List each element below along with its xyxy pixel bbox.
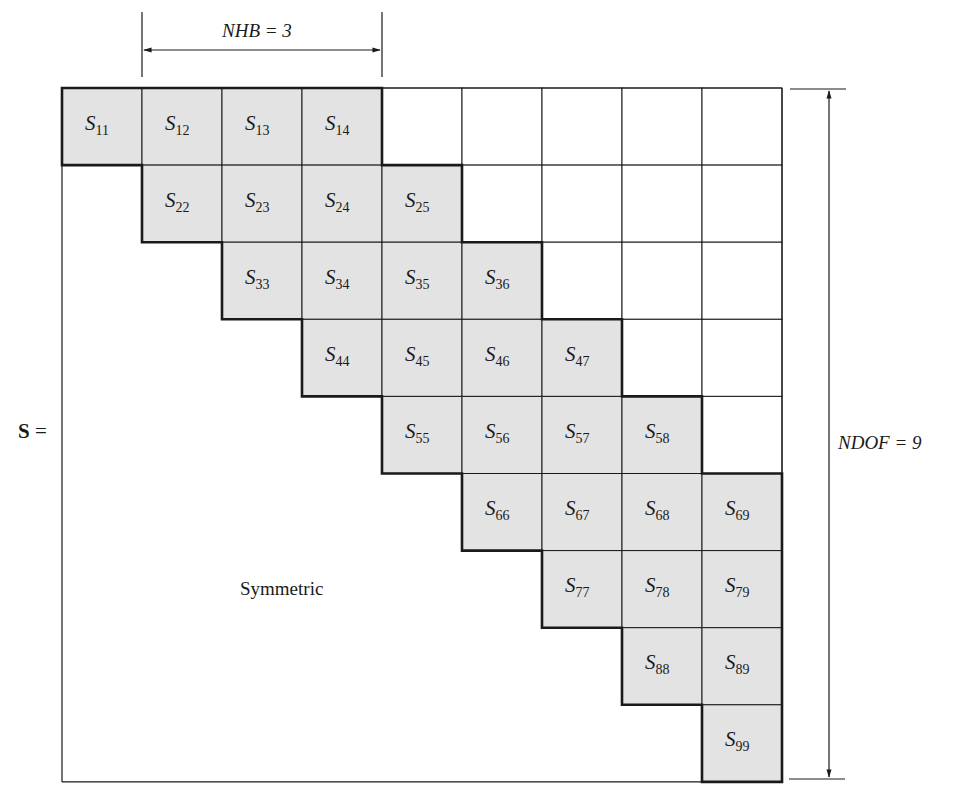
cell-subscript: 23 [256, 200, 270, 215]
cell-subscript: 99 [736, 739, 750, 754]
cell-subscript: 45 [416, 354, 430, 369]
cell-subscript: 14 [336, 123, 350, 138]
cell-subscript: 35 [416, 277, 430, 292]
cell-symbol: S [725, 496, 736, 520]
empty-cell [542, 242, 622, 319]
cell-label: S13 [245, 111, 270, 136]
cell-symbol: S [325, 188, 336, 212]
cell-symbol: S [245, 265, 256, 289]
cell-label: S55 [405, 419, 430, 444]
cell-subscript: 77 [576, 585, 590, 600]
cell-label: S56 [485, 419, 510, 444]
cell-label: S47 [565, 342, 590, 367]
empty-cell [702, 242, 782, 319]
cell-subscript: 24 [336, 200, 350, 215]
empty-cell [702, 165, 782, 242]
cell-subscript: 67 [576, 508, 590, 523]
cell-label: S33 [245, 265, 270, 290]
cell-subscript: 78 [656, 585, 670, 600]
cell-label: S12 [165, 111, 190, 136]
cell-label: S23 [245, 188, 270, 213]
cell-symbol: S [165, 111, 176, 135]
cell-label: S45 [405, 342, 430, 367]
symmetric-label: Symmetric [240, 578, 323, 600]
cell-subscript: 12 [176, 123, 190, 138]
matrix-symbol-label: S = [18, 419, 47, 444]
empty-cell [542, 88, 622, 165]
cell-symbol: S [725, 727, 736, 751]
cell-label: S67 [565, 496, 590, 521]
cell-symbol: S [645, 496, 656, 520]
cell-subscript: 13 [256, 123, 270, 138]
cell-label: S14 [325, 111, 350, 136]
cell-subscript: 69 [736, 508, 750, 523]
cell-symbol: S [325, 111, 336, 135]
cell-label: S44 [325, 342, 350, 367]
empty-cell [622, 319, 702, 396]
matrix-symbol: S [18, 419, 30, 443]
cell-symbol: S [245, 188, 256, 212]
cell-subscript: 47 [576, 354, 590, 369]
cell-subscript: 36 [496, 277, 510, 292]
ndof-label: NDOF = 9 [838, 432, 922, 454]
empty-cell [382, 88, 462, 165]
cell-symbol: S [485, 419, 496, 443]
empty-cell [462, 88, 542, 165]
cell-symbol: S [165, 188, 176, 212]
cell-label: S88 [645, 650, 670, 675]
cell-label: S79 [725, 573, 750, 598]
cell-label: S25 [405, 188, 430, 213]
cell-subscript: 79 [736, 585, 750, 600]
cell-symbol: S [325, 265, 336, 289]
cell-subscript: 55 [416, 431, 430, 446]
cell-symbol: S [405, 265, 416, 289]
cell-symbol: S [565, 342, 576, 366]
cell-label: S68 [645, 496, 670, 521]
cell-subscript: 88 [656, 662, 670, 677]
cell-symbol: S [565, 419, 576, 443]
empty-cell [462, 165, 542, 242]
cell-label: S11 [85, 111, 109, 136]
cell-subscript: 33 [256, 277, 270, 292]
cell-symbol: S [645, 650, 656, 674]
cell-symbol: S [405, 419, 416, 443]
cell-label: S24 [325, 188, 350, 213]
cell-subscript: 22 [176, 200, 190, 215]
cell-symbol: S [405, 342, 416, 366]
cell-label: S77 [565, 573, 590, 598]
empty-cell [542, 165, 622, 242]
cell-symbol: S [485, 496, 496, 520]
cell-subscript: 44 [336, 354, 350, 369]
cell-symbol: S [645, 419, 656, 443]
matrix-grid [0, 0, 956, 798]
cell-label: S46 [485, 342, 510, 367]
equals-sign: = [35, 419, 47, 443]
empty-cell [702, 88, 782, 165]
empty-cell [622, 242, 702, 319]
cell-subscript: 25 [416, 200, 430, 215]
empty-cell [702, 319, 782, 396]
cell-subscript: 57 [576, 431, 590, 446]
cell-label: S36 [485, 265, 510, 290]
cell-symbol: S [485, 342, 496, 366]
cell-label: S66 [485, 496, 510, 521]
cell-label: S89 [725, 650, 750, 675]
cell-label: S34 [325, 265, 350, 290]
cell-symbol: S [565, 496, 576, 520]
cell-label: S35 [405, 265, 430, 290]
cell-subscript: 56 [496, 431, 510, 446]
cell-symbol: S [565, 573, 576, 597]
cell-label: S78 [645, 573, 670, 598]
empty-cell [622, 88, 702, 165]
nhb-label: NHB = 3 [222, 20, 292, 42]
cell-label: S57 [565, 419, 590, 444]
cell-subscript: 58 [656, 431, 670, 446]
cell-subscript: 11 [96, 123, 109, 138]
cell-subscript: 89 [736, 662, 750, 677]
cell-symbol: S [325, 342, 336, 366]
cell-symbol: S [405, 188, 416, 212]
cell-symbol: S [645, 573, 656, 597]
cell-label: S99 [725, 727, 750, 752]
cell-symbol: S [85, 111, 96, 135]
cell-symbol: S [485, 265, 496, 289]
